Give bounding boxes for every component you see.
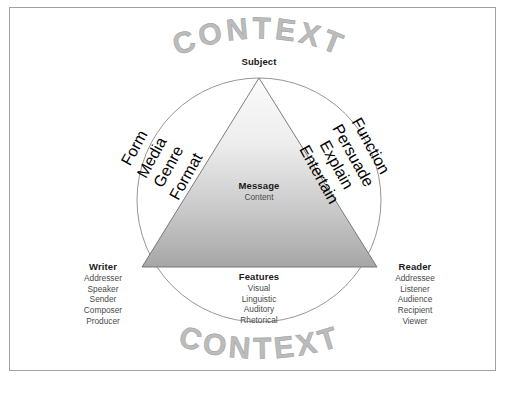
context-label-top: CONTEXT [168,11,351,61]
right-vertex-label-reader: Reader Addressee Listener Audience Recip… [365,261,465,326]
writer-item-4: Producer [53,316,153,327]
writer-item-3: Composer [53,305,153,316]
reader-item-3: Recipient [365,305,465,316]
writer-item-0: Addresser [53,273,153,284]
reader-item-4: Viewer [365,316,465,327]
subject-heading: Subject [209,56,309,68]
context-label-bottom: CONTEXT [176,319,345,365]
message-item-0: Content [209,192,309,203]
features-item-2: Auditory [209,304,309,315]
features-heading: Features [209,271,309,283]
rhetorical-triangle-figure: CONTEXT CONTEXT Subject Message Content … [0,0,510,400]
features-item-0: Visual [209,283,309,294]
left-vertex-label-writer: Writer Addresser Speaker Sender Composer… [53,261,153,326]
center-label-message: Message Content [209,180,309,203]
features-item-1: Linguistic [209,294,309,305]
reader-item-1: Listener [365,284,465,295]
features-item-3: Rhetorical [209,315,309,326]
bottom-edge-label-features: Features Visual Linguistic Auditory Rhet… [209,271,309,326]
reader-item-2: Audience [365,294,465,305]
message-heading: Message [209,180,309,192]
apex-label-subject: Subject [209,56,309,68]
writer-heading: Writer [53,261,153,273]
writer-item-1: Speaker [53,284,153,295]
reader-item-0: Addressee [365,273,465,284]
writer-item-2: Sender [53,294,153,305]
reader-heading: Reader [365,261,465,273]
